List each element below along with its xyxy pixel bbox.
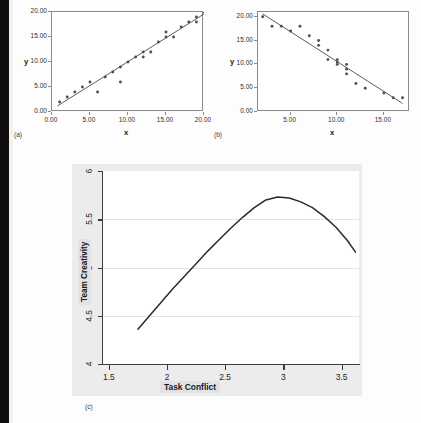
tick-mark — [254, 63, 257, 64]
tick-label: 5.00 — [283, 116, 296, 123]
tick-label: 15.00 — [375, 116, 392, 123]
tick-label: 5.00 — [240, 83, 253, 90]
tick-label: 2.5 — [219, 372, 231, 382]
panel-a-scatter: 0.005.0010.0015.0020.00 0.005.0010.0015.… — [0, 0, 210, 145]
tick-mark — [254, 40, 257, 41]
panel-b-data-layer — [258, 12, 410, 112]
tick-label: 20.00 — [31, 7, 48, 14]
panel-b-y-axis-title: y — [230, 57, 234, 66]
panel-a-data-layer — [52, 12, 204, 112]
tick-label: 10.00 — [119, 116, 136, 123]
tick-mark — [98, 268, 103, 269]
tick-mark — [109, 365, 110, 370]
tick-label: 20.00 — [195, 116, 212, 123]
tick-mark — [225, 365, 226, 370]
panel-c-caption-label: (c) — [85, 403, 93, 410]
figure-canvas: 0.005.0010.0015.0020.00 0.005.0010.0015.… — [0, 0, 421, 423]
tick-label: 5.5 — [84, 211, 94, 227]
tick-label: 4.5 — [84, 308, 94, 324]
tick-label: 0.00 — [34, 107, 47, 114]
tick-label: 3.5 — [336, 372, 348, 382]
tick-mark — [203, 112, 204, 115]
tick-mark — [98, 364, 103, 365]
tick-mark — [48, 86, 51, 87]
tick-mark — [127, 112, 128, 115]
tick-label: 20.00 — [237, 12, 254, 19]
tick-label: 10.00 — [31, 57, 48, 64]
tick-mark — [167, 365, 168, 370]
tick-mark — [98, 316, 103, 317]
panel-b-plot-frame — [257, 11, 409, 111]
tick-mark — [342, 365, 343, 370]
tick-mark — [336, 112, 337, 115]
tick-label: 6 — [84, 163, 94, 179]
panel-a-x-axis-title: x — [124, 128, 128, 137]
tick-mark — [290, 112, 291, 115]
tick-mark — [254, 87, 257, 88]
tick-label: 4 — [84, 356, 94, 372]
tick-mark — [89, 112, 90, 115]
panel-c-x-axis-title: Task Conflict — [160, 381, 220, 393]
tick-mark — [98, 219, 103, 220]
tick-mark — [48, 61, 51, 62]
tick-mark — [51, 112, 52, 115]
panel-c-y-axis-title: Team Creativity — [78, 239, 91, 305]
tick-label: 5.00 — [83, 116, 96, 123]
tick-label: 3 — [281, 372, 286, 382]
panel-c-x-axis-line — [102, 364, 360, 365]
panel-a-caption-label: (a) — [14, 131, 22, 138]
panel-c-curve-layer — [103, 171, 359, 364]
panel-b-x-axis-title: x — [330, 128, 334, 137]
tick-label: 15.00 — [157, 116, 174, 123]
tick-label: 0.00 — [240, 107, 253, 114]
tick-mark — [48, 36, 51, 37]
panel-c-plot-area — [103, 171, 359, 364]
tick-mark — [48, 11, 51, 12]
tick-label: 15.00 — [31, 32, 48, 39]
tick-mark — [165, 112, 166, 115]
tick-label: 10.00 — [328, 116, 345, 123]
tick-mark — [98, 171, 103, 172]
panel-b-scatter: 0.005.0010.0015.0020.00 5.0010.0015.00 y… — [210, 0, 421, 145]
panel-a-plot-frame — [51, 11, 203, 111]
tick-mark — [254, 111, 257, 112]
tick-label: 1.5 — [103, 372, 115, 382]
panel-a-y-axis-title: y — [24, 57, 28, 66]
tick-label: 15.00 — [237, 36, 254, 43]
tick-mark — [383, 112, 384, 115]
tick-label: 10.00 — [237, 59, 254, 66]
panel-b-caption-label: (b) — [214, 131, 222, 138]
tick-label: 5.00 — [34, 82, 47, 89]
tick-mark — [283, 365, 284, 370]
tick-label: 0.00 — [45, 116, 58, 123]
tick-mark — [254, 16, 257, 17]
